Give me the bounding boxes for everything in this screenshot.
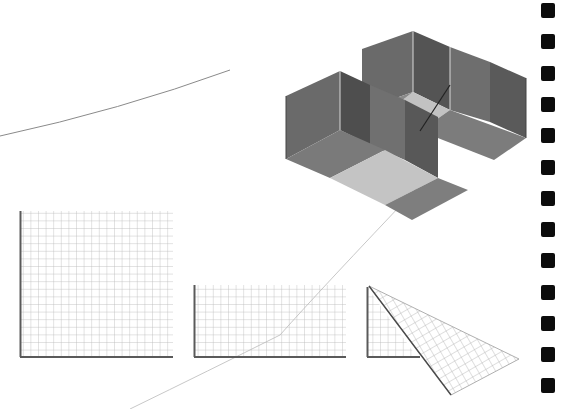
binding-hole	[541, 285, 555, 300]
kite-string-left	[0, 70, 230, 136]
page-illustration	[0, 0, 565, 409]
binding-hole	[541, 316, 555, 331]
binding-hole	[541, 253, 555, 268]
illustrated-page	[0, 0, 565, 409]
binding-hole	[541, 66, 555, 81]
binding-hole	[541, 191, 555, 206]
binding-hole	[541, 97, 555, 112]
grid-panel-folded-triangle	[367, 286, 519, 395]
grid-panel-rectangle	[194, 285, 346, 357]
binding-hole	[541, 160, 555, 175]
binding-holes	[541, 0, 557, 409]
binding-hole	[541, 347, 555, 362]
box-kite	[286, 31, 526, 220]
binding-hole	[541, 34, 555, 49]
binding-hole	[541, 222, 555, 237]
binding-hole	[541, 378, 555, 393]
binding-hole	[541, 3, 555, 18]
grid-panel-square	[20, 211, 173, 357]
binding-hole	[541, 128, 555, 143]
